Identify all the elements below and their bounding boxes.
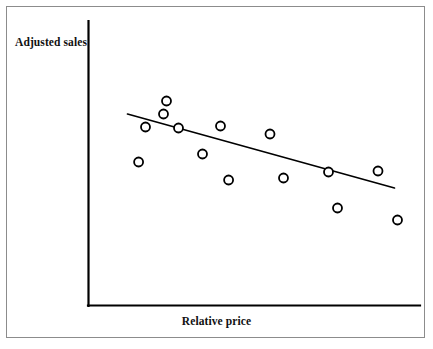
data-point bbox=[279, 174, 288, 183]
data-point bbox=[141, 123, 150, 132]
data-point bbox=[134, 158, 143, 167]
trendline bbox=[128, 114, 395, 188]
data-points bbox=[134, 97, 402, 225]
data-point bbox=[266, 130, 275, 139]
data-point bbox=[162, 97, 171, 106]
data-point bbox=[224, 176, 233, 185]
x-axis-label: Relative price bbox=[0, 315, 433, 327]
data-point bbox=[159, 110, 168, 119]
data-point bbox=[393, 216, 402, 225]
regression-line bbox=[128, 114, 395, 188]
y-axis-label: Adjusted sales bbox=[15, 36, 87, 48]
scatter-plot bbox=[0, 0, 433, 349]
data-point bbox=[198, 150, 207, 159]
data-point bbox=[374, 167, 383, 176]
data-point bbox=[324, 168, 333, 177]
data-point bbox=[174, 124, 183, 133]
data-point bbox=[216, 122, 225, 131]
figure-container: Adjusted sales Relative price bbox=[0, 0, 433, 349]
data-point bbox=[333, 204, 342, 213]
